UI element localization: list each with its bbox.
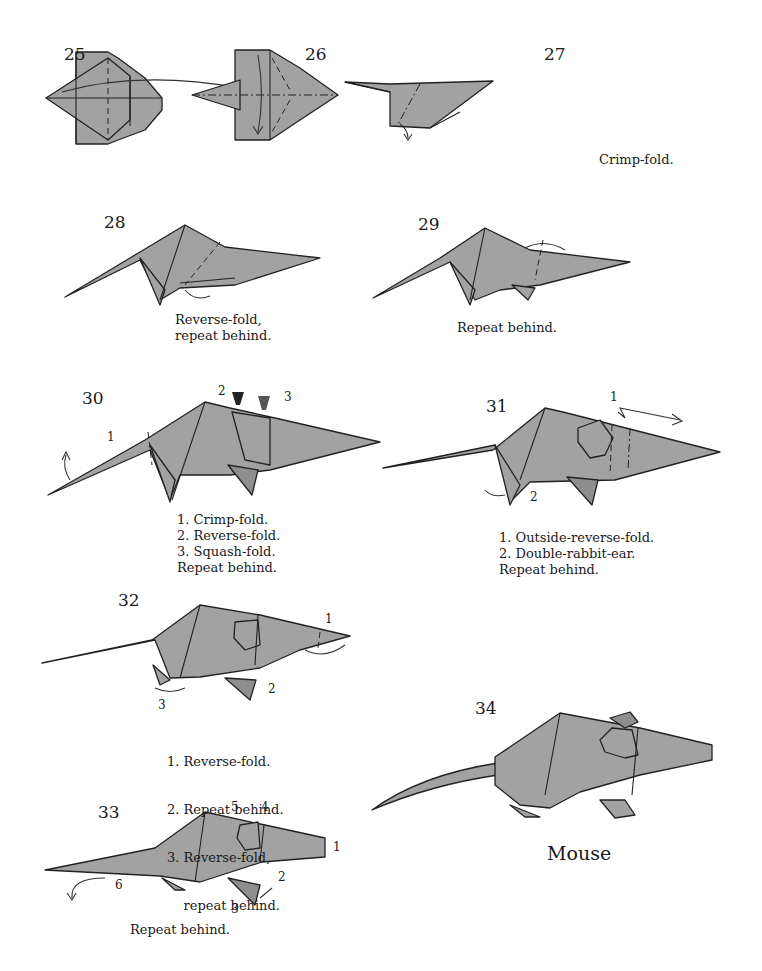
step-28-diagram [65, 225, 320, 305]
step-number-29: 29 [418, 214, 440, 234]
step-28-caption: Reverse-fold, repeat behind. [175, 312, 271, 344]
step-number-34: 34 [475, 698, 497, 718]
step-32-diagram [42, 605, 350, 700]
step-30-marker-2: 2 [218, 384, 226, 398]
step-number-32: 32 [118, 590, 140, 610]
step-32-marker-1: 1 [325, 612, 333, 626]
step-34-diagram [372, 712, 712, 818]
origami-diagrams-artwork [0, 0, 762, 971]
step-30-marker-1: 1 [107, 430, 115, 444]
step-number-28: 28 [104, 212, 126, 232]
step-31-marker-2: 2 [530, 490, 538, 504]
step-33-marker-3: 3 [231, 902, 239, 916]
step-number-25: 25 [64, 44, 86, 64]
step-number-27: 27 [544, 44, 566, 64]
step-33-marker-6: 6 [115, 878, 123, 892]
final-model-title: Mouse [547, 842, 611, 864]
step-33-marker-1: 1 [333, 840, 341, 854]
step-number-30: 30 [82, 388, 104, 408]
step-number-33: 33 [98, 802, 120, 822]
step-33-marker-2: 2 [278, 870, 286, 884]
step-33-marker-4: 4 [261, 800, 269, 814]
step-27-caption: Crimp-fold. [599, 152, 674, 168]
step-32-caption: 1. Reverse-fold. 2. Repeat behind. 3. Re… [167, 722, 284, 930]
step-32-marker-3: 3 [158, 698, 166, 712]
step-31-caption: 1. Outside-reverse-fold. 2. Double-rabbi… [499, 530, 654, 578]
step-30-diagram [48, 392, 380, 502]
step-number-31: 31 [486, 396, 508, 416]
step-33-marker-5: 5 [231, 800, 239, 814]
step-29-diagram [373, 228, 630, 305]
step-29-caption: Repeat behind. [457, 320, 557, 336]
step-30-caption: 1. Crimp-fold. 2. Reverse-fold. 3. Squas… [177, 512, 280, 576]
step-30-marker-3: 3 [284, 390, 292, 404]
step-31-marker-1: 1 [610, 390, 618, 404]
step-31-diagram [383, 408, 720, 505]
step-27-diagram [345, 81, 493, 140]
step-32-marker-2: 2 [268, 682, 276, 696]
step-number-26: 26 [305, 44, 327, 64]
step-33-caption: Repeat behind. [130, 922, 230, 938]
